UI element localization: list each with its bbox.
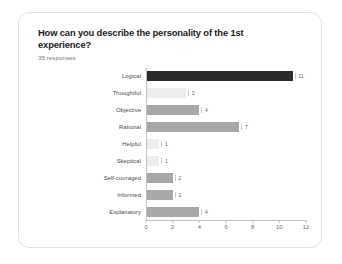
x-axis-tick-label: 10 [276, 224, 282, 230]
bar-category-label: Helpful [38, 141, 146, 147]
bar-category-label: Thoughtful [38, 90, 146, 96]
x-axis-ticks: 024681012 [146, 220, 306, 234]
bar-value-label: 4 [205, 209, 208, 215]
bar [146, 207, 199, 217]
bar-value-wrap: 4 [201, 207, 208, 217]
bar-chart: Logical11Thoughtful3Objective4Rational7H… [38, 68, 306, 236]
x-axis-tick-label: 6 [224, 224, 227, 230]
bar-value-label: 4 [205, 107, 208, 113]
x-axis-tick: 2 [171, 220, 174, 230]
bar [146, 156, 159, 166]
bar-value-tick [161, 158, 162, 164]
bar-category-label: Objective [38, 107, 146, 113]
bar-row: Skeptical1 [38, 152, 306, 169]
bar [146, 105, 199, 115]
bar-track: 4 [146, 203, 306, 220]
bar-category-label: Informed [38, 192, 146, 198]
x-axis-tick-mark [172, 220, 173, 223]
bar-row: Explanatory4 [38, 203, 306, 220]
bar-row: Self-couraged2 [38, 169, 306, 186]
bar-value-tick [175, 192, 176, 198]
survey-result-card: How can you describe the personality of … [18, 12, 322, 248]
bar [146, 122, 239, 132]
bar-value-wrap: 7 [241, 122, 248, 132]
bar-track: 4 [146, 102, 306, 119]
bar-row: Informed2 [38, 186, 306, 203]
bar-track: 2 [146, 186, 306, 203]
bar-value-tick [201, 209, 202, 215]
bar-row: Helpful1 [38, 136, 306, 153]
x-axis-tick-mark [305, 220, 306, 223]
bar [146, 71, 293, 81]
x-axis-tick-label: 8 [251, 224, 254, 230]
bar-value-label: 11 [298, 73, 304, 79]
x-axis-tick-mark [199, 220, 200, 223]
bar-track: 2 [146, 169, 306, 186]
bar-value-wrap: 11 [295, 71, 304, 81]
bar-value-wrap: 1 [161, 139, 168, 149]
bar-value-wrap: 3 [188, 88, 195, 98]
bar-value-label: 1 [165, 158, 168, 164]
bar-value-wrap: 2 [175, 190, 182, 200]
bar-rows: Logical11Thoughtful3Objective4Rational7H… [38, 68, 306, 220]
bar-value-wrap: 4 [201, 105, 208, 115]
bar [146, 190, 173, 200]
bar-value-tick [295, 73, 296, 79]
bar-row: Thoughtful3 [38, 85, 306, 102]
bar [146, 173, 173, 183]
bar-track: 3 [146, 85, 306, 102]
x-axis-tick: 12 [303, 220, 309, 230]
card-header: How can you describe the personality of … [38, 27, 288, 61]
bar-value-label: 7 [245, 124, 248, 130]
bar-row: Rational7 [38, 119, 306, 136]
bar-value-tick [175, 175, 176, 181]
page-title: How can you describe the personality of … [38, 27, 288, 50]
bar [146, 139, 159, 149]
bar-category-label: Rational [38, 124, 146, 130]
bar-category-label: Logical [38, 73, 146, 79]
x-axis-tick-label: 4 [198, 224, 201, 230]
responses-count: 35 responses [38, 54, 288, 61]
x-axis-tick-label: 2 [171, 224, 174, 230]
y-axis-line [146, 68, 147, 220]
x-axis-tick-mark [252, 220, 253, 223]
bar-track: 11 [146, 68, 306, 85]
x-axis-tick: 10 [276, 220, 282, 230]
bar-category-label: Explanatory [38, 209, 146, 215]
bar-value-tick [241, 124, 242, 130]
x-axis-tick: 0 [144, 220, 147, 230]
bar-track: 1 [146, 136, 306, 153]
bar-value-wrap: 1 [161, 156, 168, 166]
bar-row: Logical11 [38, 68, 306, 85]
x-axis-tick-mark [145, 220, 146, 223]
bar-track: 7 [146, 119, 306, 136]
x-axis-tick: 4 [198, 220, 201, 230]
bar-track: 1 [146, 152, 306, 169]
bar-value-label: 3 [192, 90, 195, 96]
x-axis-tick-mark [225, 220, 226, 223]
x-axis-tick-label: 12 [303, 224, 309, 230]
bar [146, 88, 186, 98]
bar-category-label: Self-couraged [38, 175, 146, 181]
bar-value-tick [188, 90, 189, 96]
bar-value-tick [201, 107, 202, 113]
bar-value-label: 2 [178, 192, 181, 198]
bar-value-wrap: 2 [175, 173, 182, 183]
x-axis-tick-mark [279, 220, 280, 223]
x-axis-tick: 6 [224, 220, 227, 230]
x-axis-tick: 8 [251, 220, 254, 230]
x-axis-tick-label: 0 [144, 224, 147, 230]
bar-row: Objective4 [38, 102, 306, 119]
bar-category-label: Skeptical [38, 158, 146, 164]
screenshot-root: How can you describe the personality of … [0, 0, 342, 264]
bar-value-tick [161, 141, 162, 147]
bar-value-label: 2 [178, 175, 181, 181]
bar-value-label: 1 [165, 141, 168, 147]
